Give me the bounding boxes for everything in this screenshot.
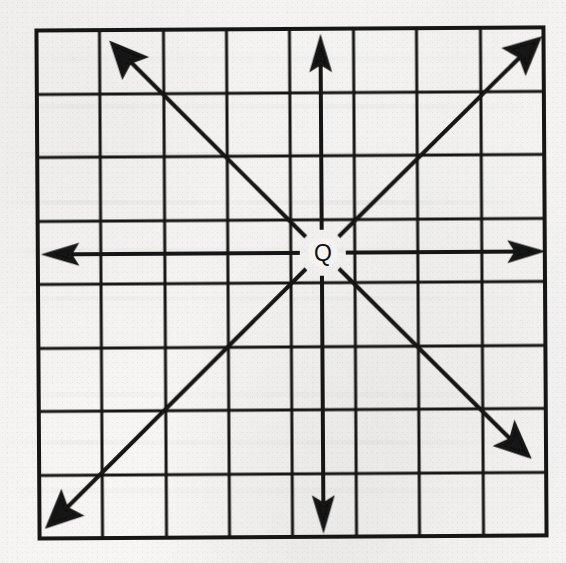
ray-south	[314, 276, 332, 527]
ray-southeast	[339, 268, 528, 457]
ray-north	[313, 41, 330, 230]
center-point-label: Q	[314, 242, 332, 265]
scanned-figure-page: Q	[0, 0, 566, 563]
ray-southwest	[47, 269, 308, 526]
grid-diagram	[0, 0, 566, 563]
ray-northwest	[113, 43, 306, 238]
ray-east	[346, 243, 539, 260]
ray-northeast	[338, 39, 540, 236]
ray-west	[48, 245, 300, 263]
